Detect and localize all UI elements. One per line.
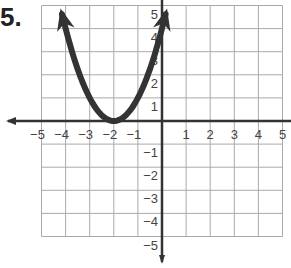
y-tick-label: −2 <box>143 168 158 183</box>
x-tick-label: −2 <box>102 127 117 142</box>
x-tick-label: 1 <box>182 127 189 142</box>
x-tick-label: 2 <box>207 127 214 142</box>
x-tick-label: −4 <box>54 127 69 142</box>
x-axis-arrow-left-icon <box>6 117 16 125</box>
y-axis-arrow-down-icon <box>159 255 165 264</box>
x-tick-label: 5 <box>279 127 286 142</box>
y-tick-label: −3 <box>143 191 158 206</box>
y-tick-label: −5 <box>143 238 158 253</box>
y-tick-label: 5 <box>151 7 158 22</box>
x-tick-label: −3 <box>78 127 93 142</box>
x-tick-label: −1 <box>126 127 141 142</box>
coordinate-plane: −5−4−3−2−11234554321−1−2−3−4−5 <box>0 0 291 268</box>
y-tick-label: 2 <box>151 76 158 91</box>
x-tick-label: 4 <box>255 127 262 142</box>
x-tick-label: −5 <box>30 127 45 142</box>
y-tick-label: −4 <box>143 214 158 229</box>
y-tick-label: −1 <box>143 145 158 160</box>
y-tick-label: 1 <box>151 99 158 114</box>
x-tick-label: 3 <box>231 127 238 142</box>
